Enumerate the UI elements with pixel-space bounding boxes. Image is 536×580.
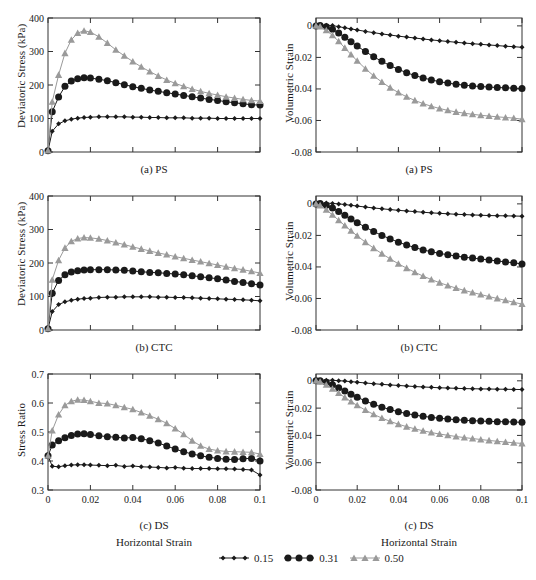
series-marker-0.15 bbox=[388, 382, 393, 387]
series-marker-0.31 bbox=[61, 271, 68, 278]
series-marker-0.31 bbox=[453, 253, 460, 260]
series-marker-0.50 bbox=[87, 28, 94, 35]
series-marker-0.15 bbox=[396, 383, 401, 388]
series-marker-0.31 bbox=[223, 98, 230, 105]
series-marker-0.31 bbox=[469, 82, 476, 89]
y-tick-label: 0 bbox=[307, 198, 312, 209]
series-marker-0.31 bbox=[323, 379, 330, 386]
series-marker-0.31 bbox=[240, 279, 247, 286]
series-marker-0.31 bbox=[74, 431, 81, 438]
series-marker-0.50 bbox=[370, 245, 377, 252]
series-marker-0.31 bbox=[248, 101, 255, 108]
series-marker-0.15 bbox=[249, 467, 254, 472]
series-marker-0.15 bbox=[379, 382, 384, 387]
series-marker-0.15 bbox=[224, 466, 229, 471]
series-marker-0.31 bbox=[411, 244, 418, 251]
series-marker-0.15 bbox=[69, 463, 74, 468]
series-marker-0.50 bbox=[354, 57, 361, 64]
legend-entry-0.31[interactable]: 0.31 bbox=[283, 552, 338, 564]
series-marker-0.50 bbox=[494, 438, 501, 445]
series-marker-0.31 bbox=[411, 412, 418, 419]
y-tick-label: 0 bbox=[39, 325, 44, 336]
series-marker-0.15 bbox=[330, 378, 335, 383]
series-marker-0.50 bbox=[329, 385, 336, 392]
series-marker-0.15 bbox=[69, 117, 74, 122]
series-marker-0.15 bbox=[130, 463, 135, 468]
series-marker-0.15 bbox=[46, 148, 51, 153]
plot-frame bbox=[48, 374, 260, 490]
series-marker-0.15 bbox=[437, 211, 442, 216]
series-marker-0.15 bbox=[50, 309, 55, 314]
series-marker-0.31 bbox=[502, 418, 509, 425]
series-marker-0.15 bbox=[363, 381, 368, 386]
legend-label: 0.15 bbox=[254, 552, 273, 564]
series-marker-0.31 bbox=[370, 228, 377, 235]
series-marker-0.50 bbox=[485, 112, 492, 119]
series-marker-0.31 bbox=[420, 74, 427, 81]
series-marker-0.15 bbox=[478, 42, 483, 47]
series-marker-0.50 bbox=[436, 279, 443, 286]
series-marker-0.15 bbox=[198, 296, 203, 301]
series-line-0.31 bbox=[48, 434, 260, 461]
series-marker-0.15 bbox=[503, 213, 508, 218]
series-marker-0.50 bbox=[172, 253, 179, 260]
series-marker-0.15 bbox=[342, 202, 347, 207]
series-marker-0.15 bbox=[215, 466, 220, 471]
legend-entry-0.15[interactable]: 0.15 bbox=[218, 552, 273, 564]
y-tick-label: -0.08 bbox=[291, 485, 312, 496]
series-marker-0.31 bbox=[257, 458, 264, 465]
series-line-0.31 bbox=[316, 381, 522, 423]
series-marker-0.15 bbox=[336, 24, 341, 29]
y-tick-label: 200 bbox=[29, 258, 44, 269]
series-marker-0.15 bbox=[314, 378, 319, 383]
series-marker-0.15 bbox=[147, 294, 152, 299]
series-marker-0.50 bbox=[95, 33, 102, 40]
series-marker-0.31 bbox=[214, 455, 221, 462]
series-marker-0.31 bbox=[335, 29, 342, 36]
y-tick-label: 0.3 bbox=[32, 485, 45, 496]
y-tick-label: 400 bbox=[29, 13, 44, 24]
series-marker-0.50 bbox=[55, 71, 62, 78]
series-marker-0.31 bbox=[231, 456, 238, 463]
plot-panel-a-left: 0100200300400Deviatoric Stress (kPa)(a) … bbox=[0, 0, 536, 580]
panel-caption-b-left: (b) CTC bbox=[48, 341, 260, 353]
series-marker-0.15 bbox=[404, 384, 409, 389]
series-marker-0.50 bbox=[428, 429, 435, 436]
series-marker-0.15 bbox=[224, 116, 229, 121]
series-marker-0.15 bbox=[130, 294, 135, 299]
series-marker-0.15 bbox=[56, 464, 61, 469]
x-tick-label: 0.04 bbox=[124, 494, 142, 505]
series-marker-0.31 bbox=[74, 75, 81, 82]
series-marker-0.15 bbox=[164, 115, 169, 120]
series-marker-0.50 bbox=[411, 425, 418, 432]
series-marker-0.31 bbox=[477, 83, 484, 90]
series-line-0.50 bbox=[48, 238, 260, 329]
series-marker-0.50 bbox=[461, 434, 468, 441]
series-marker-0.50 bbox=[370, 72, 377, 79]
series-marker-0.50 bbox=[104, 400, 111, 407]
series-marker-0.15 bbox=[96, 295, 101, 300]
series-marker-0.31 bbox=[180, 92, 187, 99]
series-marker-0.15 bbox=[62, 299, 67, 304]
legend-entry-0.50[interactable]: 0.50 bbox=[349, 552, 404, 564]
series-marker-0.15 bbox=[379, 206, 384, 211]
series-marker-0.15 bbox=[105, 114, 110, 119]
series-marker-0.15 bbox=[207, 116, 212, 121]
series-marker-0.31 bbox=[395, 66, 402, 73]
series-marker-0.15 bbox=[412, 384, 417, 389]
series-marker-0.50 bbox=[395, 89, 402, 96]
series-marker-0.31 bbox=[146, 269, 153, 276]
series-marker-0.50 bbox=[74, 235, 81, 242]
series-marker-0.31 bbox=[510, 259, 517, 266]
series-marker-0.15 bbox=[520, 45, 525, 50]
series-marker-0.50 bbox=[347, 227, 354, 234]
y-tick-label: 100 bbox=[29, 113, 44, 124]
series-marker-0.31 bbox=[87, 74, 94, 81]
series-marker-0.31 bbox=[335, 384, 342, 391]
plot-panel-c-right: 00.020.040.060.080.10-0.02-0.04-0.06-0.0… bbox=[0, 0, 536, 580]
series-marker-0.31 bbox=[335, 208, 342, 215]
series-marker-0.50 bbox=[129, 243, 136, 250]
series-marker-0.50 bbox=[469, 435, 476, 442]
series-marker-0.31 bbox=[257, 282, 264, 289]
series-marker-0.31 bbox=[370, 53, 377, 60]
